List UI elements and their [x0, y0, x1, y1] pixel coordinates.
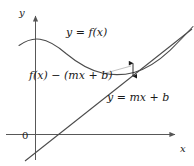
y-axis-label: y — [19, 8, 25, 18]
x-axis-label: x — [180, 144, 186, 154]
figure-canvas — [0, 0, 194, 166]
line-equation-label: y = mx + b — [107, 92, 169, 103]
curve-equation-label: y = f(x) — [66, 27, 107, 38]
slant-asymptote-figure: y x 0 y = f(x) f(x) − (mx + b) y = mx + … — [0, 0, 194, 166]
difference-expression-label: f(x) − (mx + b) — [29, 70, 113, 81]
origin-label: 0 — [22, 131, 28, 141]
